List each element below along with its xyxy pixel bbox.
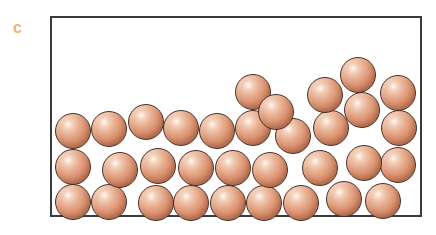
rectangular-container <box>50 16 422 217</box>
panel-label: c <box>13 20 22 36</box>
figure-panel: c <box>0 0 436 235</box>
